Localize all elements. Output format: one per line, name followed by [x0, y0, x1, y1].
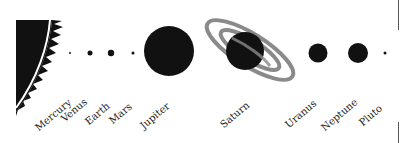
planet-neptune	[348, 43, 368, 63]
right-edge-line-top	[398, 0, 399, 30]
solar-system-diagram	[0, 0, 404, 143]
planet-pluto	[384, 52, 387, 55]
right-edge-line-bottom	[398, 122, 399, 143]
planet-mercury	[69, 52, 71, 54]
planet-mars	[132, 52, 135, 55]
planet-earth	[108, 50, 114, 56]
planet-venus	[88, 51, 93, 56]
sun	[16, 20, 63, 116]
planet-saturn	[199, 10, 301, 90]
planet-jupiter	[144, 26, 194, 76]
planet-uranus	[309, 44, 328, 63]
